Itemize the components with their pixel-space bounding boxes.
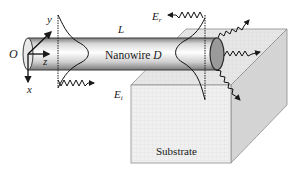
nanowire-diagram: O y z x L Nanowire D Ei Er Substrate — [0, 0, 303, 170]
substrate-label: Substrate — [156, 146, 197, 157]
reflected-field-label: Er — [152, 11, 162, 24]
reflected-wave — [168, 12, 203, 18]
nanowire-end-cap — [210, 38, 224, 70]
axis-y-label: y — [47, 14, 52, 25]
nanowire-text: Nanowire — [105, 49, 150, 61]
incident-field-label: Ei — [114, 89, 123, 102]
incident-field-subscript: i — [121, 94, 123, 102]
axis-x-label: x — [27, 84, 32, 95]
reflected-field-symbol: E — [152, 10, 159, 22]
axis-z-label: z — [43, 56, 47, 67]
nanowire-label: Nanowire D — [105, 50, 162, 62]
length-label: L — [118, 24, 124, 35]
incident-field-symbol: E — [114, 88, 121, 100]
reflected-field-subscript: r — [159, 16, 162, 24]
diagram-canvas — [0, 0, 303, 170]
incident-wave — [58, 80, 94, 86]
diameter-label: D — [153, 49, 161, 61]
origin-label: O — [9, 48, 18, 60]
